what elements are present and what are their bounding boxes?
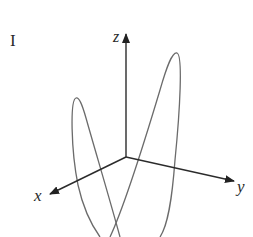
y-axis-label: y <box>235 177 245 196</box>
z-axis-label: z <box>112 28 120 45</box>
axes <box>50 34 234 194</box>
space-curve-diagram: I z x y <box>0 0 253 237</box>
x-axis <box>50 157 126 194</box>
panel-label: I <box>10 31 16 50</box>
y-axis <box>126 157 234 181</box>
x-axis-label: x <box>33 186 42 205</box>
